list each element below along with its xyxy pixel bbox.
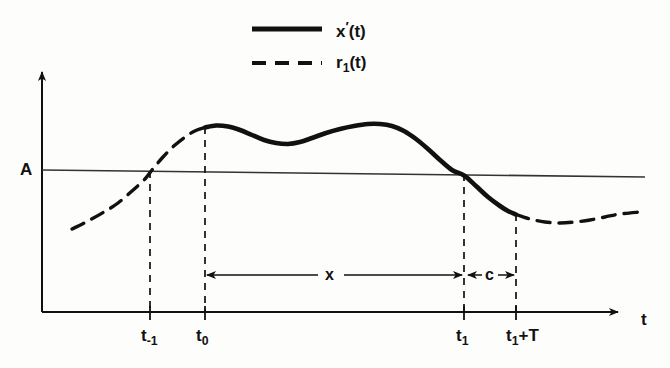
legend-label-r1-of-t: r1(t) — [336, 54, 366, 75]
legend-r-arg: (t) — [349, 53, 366, 72]
threshold-line-a — [42, 170, 645, 177]
dimension-label-c: c — [485, 267, 494, 283]
tick-t-1-plus-T-suffix: +T — [518, 326, 538, 345]
tick-t-minus-1-sub: -1 — [147, 334, 158, 348]
tick-t-1-sub: 1 — [462, 334, 469, 348]
tick-label-t-0: t0 — [196, 327, 208, 348]
tick-t-0-sub: 0 — [202, 334, 209, 348]
dimension-label-x: x — [325, 267, 334, 283]
curve-r1-trailing-dashed — [516, 212, 640, 223]
tick-label-t-1: t1 — [456, 327, 468, 348]
plot-svg — [0, 0, 670, 368]
tick-label-t-1-plus-T: t1+T — [506, 327, 539, 348]
tick-label-t-minus-1: t-1 — [141, 327, 158, 348]
figure-canvas: x′(t) r1(t) A t t-1 t0 t1 t1+T x c — [0, 0, 670, 368]
threshold-label-a: A — [20, 161, 32, 178]
legend-r-base: r — [336, 53, 343, 72]
curve-x-prime-solid — [205, 124, 516, 215]
legend-x-arg: (t) — [349, 22, 366, 41]
legend-label-x-prime-of-t: x′(t) — [336, 20, 366, 40]
x-axis-label: t — [641, 311, 647, 328]
curve-r1-leading-dashed — [72, 128, 205, 230]
